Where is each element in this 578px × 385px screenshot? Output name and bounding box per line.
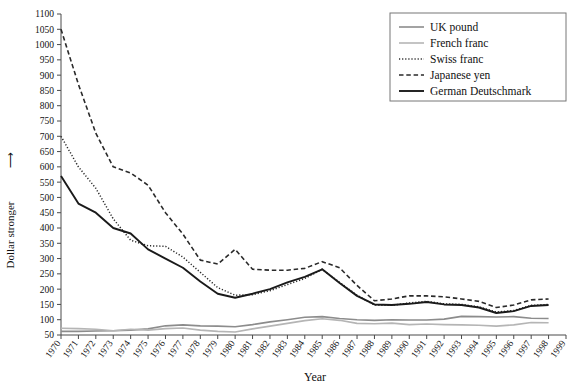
x-tick-label: 1990 [392,338,411,360]
x-tick-label: 1976 [148,338,167,360]
y-axis-tick-labels: 5010015020025030035040045050055060065070… [35,9,54,340]
y-tick-label: 500 [40,193,55,203]
x-axis-ticks [61,335,566,339]
x-tick-label: 1991 [409,338,428,360]
x-tick-label: 1995 [479,338,498,360]
y-tick-label: 900 [40,71,55,81]
currency-chart: 5010015020025030035040045050055060065070… [0,0,578,385]
y-tick-label: 700 [40,132,55,142]
x-tick-label: 1975 [131,338,150,360]
legend-label-french-franc: French franc [430,37,488,49]
series-line-french-franc [61,319,549,332]
x-tick-label: 1994 [461,338,480,360]
y-tick-label: 300 [40,254,55,264]
x-tick-label: 1974 [113,338,132,360]
x-tick-label: 1997 [514,338,533,360]
y-tick-label: 350 [40,239,55,249]
series-line-swiss-franc [61,136,549,312]
y-tick-label: 200 [40,285,55,295]
series-line-german-deutschmark [61,176,549,313]
x-tick-label: 1989 [374,338,393,360]
x-tick-label: 1983 [270,338,289,360]
x-tick-label: 1984 [287,338,306,360]
y-tick-label: 1100 [35,9,54,19]
x-tick-label: 1977 [165,338,184,360]
y-tick-label: 1050 [35,25,54,35]
y-tick-label: 150 [40,300,55,310]
x-tick-label: 1982 [253,338,272,360]
y-tick-label: 750 [40,116,55,126]
y-axis-ticks [57,14,61,335]
x-axis-label: Year [304,370,326,384]
x-tick-label: 1998 [531,338,550,360]
y-axis-label: Dollar stronger [4,201,16,268]
x-tick-label: 1985 [305,338,324,360]
legend-label-swiss-franc: Swiss franc [430,53,483,65]
chart-canvas: 5010015020025030035040045050055060065070… [0,0,578,385]
y-tick-label: 450 [40,208,55,218]
x-tick-label: 1996 [496,338,515,360]
y-tick-label: 600 [40,162,55,172]
x-tick-label: 1970 [44,338,63,360]
y-tick-label: 800 [40,101,55,111]
y-tick-label: 400 [40,223,55,233]
chart-legend: UK poundFrench francSwiss francJapanese … [390,13,566,101]
x-tick-label: 1987 [340,338,359,360]
x-tick-label: 1981 [235,338,254,360]
x-tick-label: 1973 [96,338,115,360]
x-tick-label: 1979 [200,338,219,360]
x-tick-label: 1988 [357,338,376,360]
x-tick-label: 1971 [61,338,80,360]
x-tick-label: 1972 [78,338,97,360]
y-axis-arrow: ⟶ [4,152,16,168]
x-axis-tick-labels: 1970197119721973197419751976197719781979… [44,338,568,360]
x-tick-label: 1992 [427,338,446,360]
y-tick-label: 950 [40,55,55,65]
y-tick-label: 100 [40,315,55,325]
x-tick-label: 1999 [549,338,568,360]
x-tick-label: 1986 [322,338,341,360]
x-tick-label: 1993 [444,338,463,360]
y-tick-label: 1000 [35,40,54,50]
y-tick-label: 250 [40,269,55,279]
x-tick-label: 1980 [218,338,237,360]
legend-label-uk-pound: UK pound [430,21,478,34]
y-tick-label: 850 [40,86,55,96]
x-tick-label: 1978 [183,338,202,360]
legend-label-german-deutschmark: German Deutschmark [430,85,531,97]
y-tick-label: 650 [40,147,55,157]
y-tick-label: 550 [40,178,55,188]
y-tick-label: 50 [45,330,55,340]
legend-label-japanese-yen: Japanese yen [430,69,491,82]
